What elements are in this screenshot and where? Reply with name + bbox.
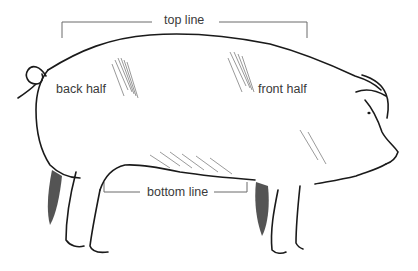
- back-half-label: back half: [56, 82, 106, 96]
- front-half-label: front half: [258, 82, 307, 96]
- bottom-line-label: bottom line: [143, 185, 212, 199]
- belly-shading: [150, 130, 326, 174]
- pig-diagram: top line bottom line back half front hal…: [0, 0, 418, 271]
- pig-body: [18, 34, 398, 253]
- shading-hatching: [112, 52, 254, 98]
- leg-shading: [48, 170, 269, 236]
- pig-illustration: [0, 0, 418, 271]
- top-line-label: top line: [160, 13, 208, 27]
- pig-eye: [367, 112, 370, 114]
